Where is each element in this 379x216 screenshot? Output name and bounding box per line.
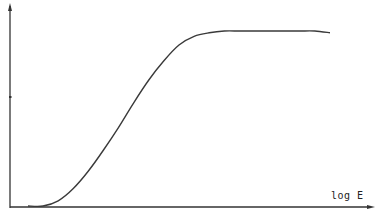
x-axis-label: log E — [331, 190, 364, 201]
chart-canvas — [0, 0, 379, 216]
data-curve — [28, 31, 330, 207]
y-axis-arrow-icon — [8, 3, 12, 11]
x-axis-arrow-icon — [367, 205, 375, 209]
